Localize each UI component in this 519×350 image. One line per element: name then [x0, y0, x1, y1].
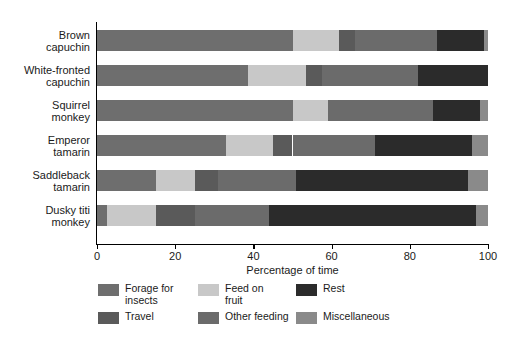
- legend-item[interactable]: Other feeding: [198, 311, 289, 324]
- bar-segment[interactable]: [418, 65, 488, 86]
- bar-segment[interactable]: [476, 205, 488, 226]
- category-label-line: Saddleback: [0, 169, 90, 181]
- category-label-line: tamarin: [0, 181, 90, 193]
- legend-swatch: [296, 312, 317, 324]
- bar-row[interactable]: [97, 65, 488, 86]
- bar-segment[interactable]: [306, 65, 322, 86]
- bar-segment[interactable]: [195, 205, 269, 226]
- bar-segment[interactable]: [97, 100, 293, 121]
- bar-segment[interactable]: [97, 170, 156, 191]
- bar-row[interactable]: [97, 30, 488, 51]
- bar-segment[interactable]: [218, 170, 296, 191]
- stacked-bar-chart: BrowncapuchinWhite-frontedcapuchinSquirr…: [0, 0, 519, 350]
- x-axis-tick-label: 80: [404, 250, 416, 262]
- category-label: Browncapuchin: [0, 29, 90, 53]
- category-label: Saddlebacktamarin: [0, 169, 90, 193]
- bar-segment[interactable]: [156, 205, 195, 226]
- bar-segment[interactable]: [322, 65, 418, 86]
- bar-segment[interactable]: [226, 135, 273, 156]
- chart-legend: Forage for insectsFeed on fruitRestTrave…: [98, 283, 428, 335]
- bar-segment[interactable]: [339, 30, 355, 51]
- x-axis-tick-label: 100: [479, 250, 497, 262]
- legend-swatch: [198, 312, 219, 324]
- bar-row[interactable]: [97, 205, 488, 226]
- bar-segment[interactable]: [97, 205, 107, 226]
- legend-label: Rest: [323, 283, 345, 295]
- legend-label: Forage for insects: [125, 283, 173, 306]
- category-label-line: White-fronted: [0, 64, 90, 76]
- bar-segment[interactable]: [293, 30, 340, 51]
- category-label: White-frontedcapuchin: [0, 64, 90, 88]
- bar-segment[interactable]: [484, 30, 488, 51]
- legend-label: Miscellaneous: [323, 311, 390, 323]
- category-label-line: Dusky titi: [0, 204, 90, 216]
- bar-segment[interactable]: [97, 30, 293, 51]
- category-label: Squirrelmonkey: [0, 99, 90, 123]
- x-axis-tick: [253, 244, 254, 249]
- legend-item[interactable]: Forage for insects: [98, 283, 173, 306]
- x-axis-title: Percentage of time: [97, 264, 488, 276]
- bar-row[interactable]: [97, 170, 488, 191]
- category-label-line: monkey: [0, 111, 90, 123]
- bar-segment[interactable]: [296, 170, 468, 191]
- bar-segment[interactable]: [468, 170, 488, 191]
- category-label-line: capuchin: [0, 76, 90, 88]
- bar-segment[interactable]: [437, 30, 484, 51]
- x-axis-tick: [488, 244, 489, 249]
- plot-area: [97, 22, 488, 244]
- bar-segment[interactable]: [328, 100, 434, 121]
- bar-segment[interactable]: [97, 135, 226, 156]
- bar-segment[interactable]: [273, 135, 293, 156]
- category-label-line: Brown: [0, 29, 90, 41]
- category-label-line: tamarin: [0, 146, 90, 158]
- legend-item[interactable]: Rest: [296, 283, 345, 296]
- x-axis-tick: [410, 244, 411, 249]
- bar-segment[interactable]: [433, 100, 480, 121]
- category-label-line: Emperor: [0, 134, 90, 146]
- bar-segment[interactable]: [355, 30, 437, 51]
- x-axis-tick-label: 20: [169, 250, 181, 262]
- category-label: Dusky titimonkey: [0, 204, 90, 228]
- x-axis-tick-label: 40: [247, 250, 259, 262]
- bar-row[interactable]: [97, 100, 488, 121]
- legend-swatch: [198, 284, 219, 296]
- bar-segment[interactable]: [97, 65, 248, 86]
- legend-swatch: [296, 284, 317, 296]
- x-axis-tick: [97, 244, 98, 249]
- x-axis-tick: [175, 244, 176, 249]
- category-label: Emperortamarin: [0, 134, 90, 158]
- legend-swatch: [98, 312, 119, 324]
- bar-segment[interactable]: [195, 170, 218, 191]
- bar-segment[interactable]: [107, 205, 156, 226]
- bar-segment[interactable]: [293, 135, 375, 156]
- legend-label: Other feeding: [225, 311, 289, 323]
- bar-segment[interactable]: [293, 100, 328, 121]
- bar-segment[interactable]: [269, 205, 476, 226]
- bar-segment[interactable]: [480, 100, 488, 121]
- bar-segment[interactable]: [375, 135, 473, 156]
- category-label-line: Squirrel: [0, 99, 90, 111]
- x-axis-tick-label: 0: [94, 250, 100, 262]
- x-axis-tick: [332, 244, 333, 249]
- category-label-line: capuchin: [0, 41, 90, 53]
- legend-label: Travel: [125, 311, 154, 323]
- category-label-line: monkey: [0, 216, 90, 228]
- x-axis-line: [96, 244, 488, 245]
- bar-segment[interactable]: [248, 65, 307, 86]
- legend-item[interactable]: Miscellaneous: [296, 311, 390, 324]
- x-axis-tick-label: 60: [325, 250, 337, 262]
- bar-row[interactable]: [97, 135, 488, 156]
- legend-item[interactable]: Travel: [98, 311, 154, 324]
- bar-segment[interactable]: [472, 135, 488, 156]
- legend-swatch: [98, 284, 119, 296]
- legend-item[interactable]: Feed on fruit: [198, 283, 264, 306]
- bar-segment[interactable]: [156, 170, 195, 191]
- legend-label: Feed on fruit: [225, 283, 264, 306]
